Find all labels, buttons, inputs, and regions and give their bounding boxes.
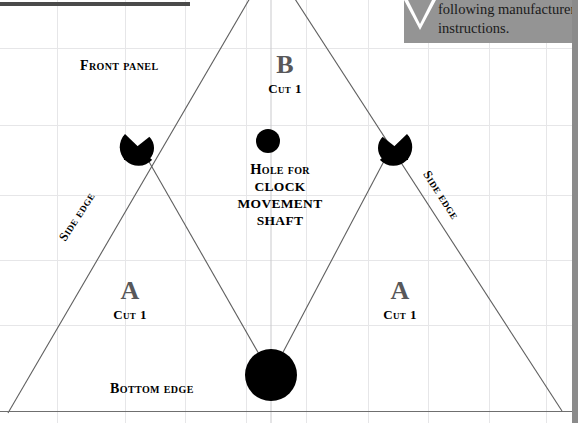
bottom-center-circle bbox=[245, 349, 297, 401]
piece-cut-count: Cut 1 bbox=[350, 307, 450, 323]
piece-letter: A bbox=[350, 278, 450, 304]
hole-note-line-2: CLOCK bbox=[215, 178, 345, 195]
piece-letter: A bbox=[80, 278, 180, 304]
bottom-edge-rule bbox=[0, 411, 572, 412]
label-bottom-edge: Bottom edge bbox=[110, 381, 194, 397]
pattern-sheet: following manufacturer instructions. Fro… bbox=[0, 0, 578, 423]
top-rule-bar bbox=[0, 2, 190, 6]
page-right-border bbox=[572, 0, 578, 423]
hole-for-shaft-note: Hole for CLOCK MOVEMENT SHAFT bbox=[215, 161, 345, 229]
piece-cut-count: Cut 1 bbox=[235, 81, 335, 97]
callout-line-2: instructions. bbox=[438, 19, 568, 38]
hole-note-line-3: MOVEMENT bbox=[215, 195, 345, 212]
piece-letter: B bbox=[235, 52, 335, 78]
piece-label-b: B Cut 1 bbox=[235, 52, 335, 97]
label-front-panel: Front panel bbox=[80, 58, 159, 74]
piece-label-a-left: A Cut 1 bbox=[80, 278, 180, 323]
hole-note-line-1: Hole for bbox=[215, 161, 345, 178]
hole-note-line-4: SHAFT bbox=[215, 212, 345, 229]
piece-label-a-right: A Cut 1 bbox=[350, 278, 450, 323]
piece-cut-count: Cut 1 bbox=[80, 307, 180, 323]
hole-for-shaft-circle bbox=[256, 129, 280, 153]
callout-line-1: following manufacturer bbox=[438, 0, 568, 19]
